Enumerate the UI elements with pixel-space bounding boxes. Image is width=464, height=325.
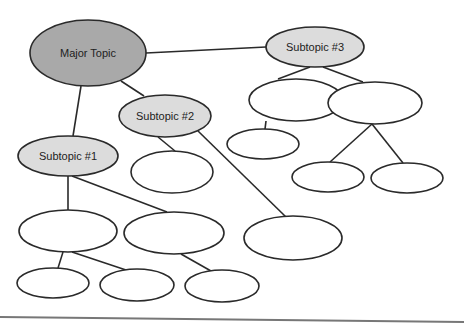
connector-major-to-sub1: [73, 86, 81, 136]
node-major: Major Topic: [30, 20, 146, 86]
empty-node: [17, 268, 89, 298]
node-ellipse: [124, 212, 224, 254]
node-ellipse: [19, 210, 117, 252]
empty-node: [124, 212, 224, 254]
node-sub1: Subtopic #1: [18, 136, 118, 176]
empty-node: [185, 270, 259, 302]
node-sub2: Subtopic #2: [119, 95, 211, 137]
empty-node: [100, 269, 174, 301]
node-ellipse: [292, 162, 364, 192]
connector-major-to-sub2: [121, 81, 144, 96]
empty-node: [244, 216, 342, 260]
node-label: Major Topic: [60, 47, 117, 59]
node-ellipse: [328, 82, 422, 124]
topic-nodes: Major TopicSubtopic #3Subtopic #2Subtopi…: [17, 20, 443, 302]
connector-s1a-to-s1a2: [72, 252, 126, 270]
connector-s3b-to-s3b2: [372, 124, 403, 163]
empty-node: [19, 210, 117, 252]
node-label: Subtopic #2: [136, 110, 194, 122]
node-ellipse: [227, 129, 299, 159]
node-ellipse: [131, 151, 213, 193]
node-label: Subtopic #3: [286, 41, 344, 53]
empty-node: [328, 82, 422, 124]
node-ellipse: [17, 268, 89, 298]
empty-node: [131, 151, 213, 193]
connector-sub3-to-s3b: [323, 67, 363, 82]
concept-map-diagram: Major TopicSubtopic #3Subtopic #2Subtopi…: [0, 0, 464, 325]
node-ellipse: [244, 216, 342, 260]
connector-major-to-sub3: [146, 47, 266, 53]
connector-s1a-to-s1a1: [58, 252, 63, 268]
connector-sub3-to-s3a: [278, 67, 310, 79]
node-label: Subtopic #1: [39, 150, 97, 162]
connector-s1b-to-s1b1: [181, 254, 211, 271]
node-sub3: Subtopic #3: [266, 27, 364, 67]
bottom-rule: [0, 317, 464, 322]
node-ellipse: [185, 270, 259, 302]
empty-node: [292, 162, 364, 192]
connector-s3a-to-s3a1: [265, 121, 266, 129]
empty-node: [371, 163, 443, 193]
node-ellipse: [100, 269, 174, 301]
connector-s3b-to-s3b1: [330, 124, 372, 162]
empty-node: [227, 129, 299, 159]
connector-sub2-to-s2a: [158, 137, 175, 151]
node-ellipse: [371, 163, 443, 193]
